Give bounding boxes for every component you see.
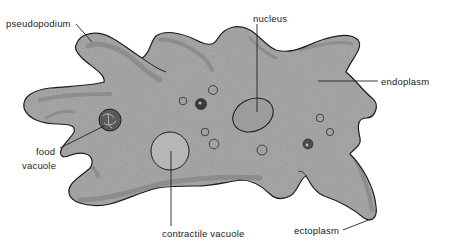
label-contractile-vacuole: contractile vacuole: [162, 228, 244, 239]
food-vacuole: [99, 109, 121, 131]
contractile-vacuole: [151, 132, 189, 170]
ectoplasm-leader: [343, 219, 371, 230]
label-ectoplasm: ectoplasm: [294, 225, 339, 236]
label-food-vacuole-line1: food: [36, 146, 55, 157]
label-endoplasm: endoplasm: [381, 76, 429, 87]
amoeba-body: [24, 27, 377, 220]
amoeba-diagram: pseudopodium nucleus endoplasm food vacu…: [0, 0, 450, 247]
label-food-vacuole-line2: vacuole: [22, 160, 56, 171]
label-pseudopodium: pseudopodium: [6, 18, 71, 29]
label-nucleus: nucleus: [253, 13, 287, 24]
